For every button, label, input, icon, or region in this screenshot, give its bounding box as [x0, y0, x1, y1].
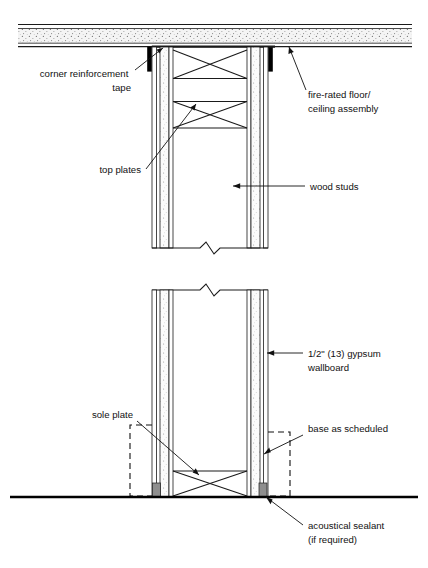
lower-wall-section — [10, 284, 418, 497]
upper-cavity-bracing — [173, 50, 247, 128]
lower-left-inner-gypsum — [169, 290, 173, 497]
acoustical-sealant-right — [259, 483, 267, 497]
architectural-detail-drawing: corner reinforcement tape fire-rated flo… — [0, 0, 428, 568]
lower-left-outer-gypsum — [152, 290, 157, 497]
right-wall-stud — [251, 47, 260, 248]
lower-wall-left — [152, 290, 173, 497]
label-fire-rated-assembly-line-1: fire-rated floor/ — [308, 89, 371, 100]
lower-right-outer-gypsum — [263, 290, 268, 497]
fire-rated-floor-ceiling-assembly — [18, 25, 412, 47]
detail-section-canvas: corner reinforcement tape fire-rated flo… — [0, 0, 428, 568]
label-gypsum-wallboard-line-1: 1/2" (13) gypsum — [308, 348, 381, 359]
acoustical-sealant-left — [153, 483, 161, 497]
lower-right-inner-gypsum — [247, 290, 251, 497]
label-acoustical-sealant-line-2: (if required) — [308, 534, 357, 545]
left-wall-inner-gypsum — [169, 47, 173, 248]
base-profile-right — [268, 432, 290, 496]
lower-left-stud — [160, 290, 169, 497]
label-corner-reinforcement-tape-line-2: tape — [112, 82, 131, 93]
right-wall-outer-gypsum — [263, 47, 268, 248]
label-wood-studs-line-1: wood studs — [309, 181, 359, 192]
upper-wall-right — [247, 47, 268, 248]
label-base-as-scheduled: base as scheduled — [308, 423, 388, 434]
right-wall-inner-gypsum — [247, 47, 251, 248]
label-wood-studs: wood studs — [309, 181, 359, 192]
label-gypsum-wallboard: 1/2" (13) gypsum wallboard — [307, 348, 383, 373]
annotation-labels: corner reinforcement tape fire-rated flo… — [40, 68, 388, 545]
base-profile-left — [130, 425, 152, 496]
leader-fire-rated-assembly — [289, 47, 306, 90]
lower-cavity-bracing — [173, 471, 247, 496]
corner-reinforcement-tape-right — [268, 47, 273, 72]
label-fire-rated-assembly-line-2: ceiling assembly — [308, 103, 379, 114]
label-base-as-scheduled-line-1: base as scheduled — [308, 423, 388, 434]
label-gypsum-wallboard-line-2: wallboard — [307, 362, 349, 373]
arrowhead-wood-studs — [233, 183, 240, 189]
label-acoustical-sealant-line-1: acoustical sealant — [308, 520, 385, 531]
label-sole-plate: sole plate — [92, 409, 133, 420]
sole-plate-group — [173, 471, 247, 496]
lower-right-stud — [251, 290, 260, 497]
label-corner-reinforcement-tape: corner reinforcement tape — [40, 68, 131, 93]
top-plates-group — [173, 79, 247, 102]
label-sole-plate-line-1: sole plate — [92, 409, 133, 420]
arrowhead-fire-rated-assembly — [288, 47, 293, 54]
left-wall-outer-gypsum — [152, 47, 157, 248]
left-wall-stud — [160, 47, 169, 248]
label-top-plates: top plates — [99, 164, 141, 175]
label-top-plates-line-1: top plates — [99, 164, 141, 175]
label-fire-rated-assembly: fire-rated floor/ ceiling assembly — [308, 89, 379, 114]
label-corner-reinforcement-tape-line-1: corner reinforcement — [40, 68, 129, 79]
assembly-stipple — [18, 29, 412, 43]
label-acoustical-sealant: acoustical sealant (if required) — [308, 520, 387, 545]
upper-wall-section — [152, 47, 268, 254]
lower-wall-right — [247, 290, 268, 497]
arrowhead-sole-plate — [193, 468, 199, 475]
